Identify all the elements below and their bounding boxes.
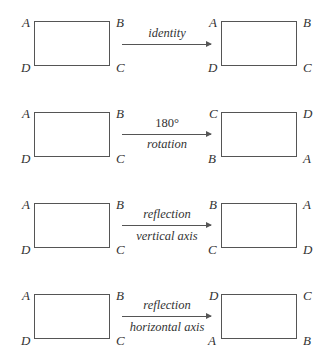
source-corner-bottom-left: D xyxy=(21,243,30,256)
source-corner-bottom-right: C xyxy=(116,243,125,256)
target-corner-bottom-left: C xyxy=(208,243,217,256)
target-corner-bottom-left: A xyxy=(208,334,216,347)
target-corner-bottom-right: D xyxy=(303,243,312,256)
target-corner-bottom-right: A xyxy=(303,152,311,165)
transformation-row-rotation: A B D C 180° rotation C D B A xyxy=(0,91,325,181)
arrow-icon xyxy=(122,316,211,317)
transformation-row-reflection-vertical: A B D C reflection vertical axis B A C D xyxy=(0,182,325,272)
source-rectangle xyxy=(34,112,110,157)
source-corner-top-left: A xyxy=(22,198,30,211)
target-corner-top-right: A xyxy=(303,198,311,211)
transformation-row-reflection-horizontal: A B D C reflection horizontal axis D C A… xyxy=(0,273,325,355)
source-corner-top-left: A xyxy=(22,16,30,29)
target-rectangle xyxy=(221,294,297,339)
target-corner-bottom-left: B xyxy=(208,152,216,165)
target-corner-bottom-left: D xyxy=(208,61,217,74)
target-corner-top-left: C xyxy=(209,107,218,120)
source-corner-bottom-left: D xyxy=(21,61,30,74)
target-corner-bottom-right: C xyxy=(303,61,312,74)
source-corner-bottom-right: C xyxy=(116,61,125,74)
target-corner-top-left: B xyxy=(209,198,217,211)
target-rectangle xyxy=(221,21,297,66)
target-corner-top-left: A xyxy=(209,16,217,29)
target-corner-bottom-right: B xyxy=(303,334,311,347)
target-rectangle xyxy=(221,112,297,157)
target-corner-top-right: C xyxy=(303,289,312,302)
source-corner-bottom-left: D xyxy=(21,152,30,165)
arrow-icon xyxy=(122,44,211,45)
target-corner-top-right: D xyxy=(303,107,312,120)
source-corner-bottom-right: C xyxy=(116,152,125,165)
arrow-icon xyxy=(122,225,211,226)
transformation-row-identity: A B D C identity A B D C xyxy=(0,0,325,90)
source-rectangle xyxy=(34,294,110,339)
source-corner-top-left: A xyxy=(22,107,30,120)
target-rectangle xyxy=(221,203,297,248)
target-corner-top-left: D xyxy=(209,289,218,302)
source-rectangle xyxy=(34,203,110,248)
source-corner-bottom-right: C xyxy=(116,334,125,347)
source-corner-top-left: A xyxy=(22,289,30,302)
source-corner-bottom-left: D xyxy=(21,334,30,347)
transformation-label-line2: rotation xyxy=(107,138,227,151)
source-rectangle xyxy=(34,21,110,66)
target-corner-top-right: B xyxy=(303,16,311,29)
arrow-icon xyxy=(122,134,211,135)
